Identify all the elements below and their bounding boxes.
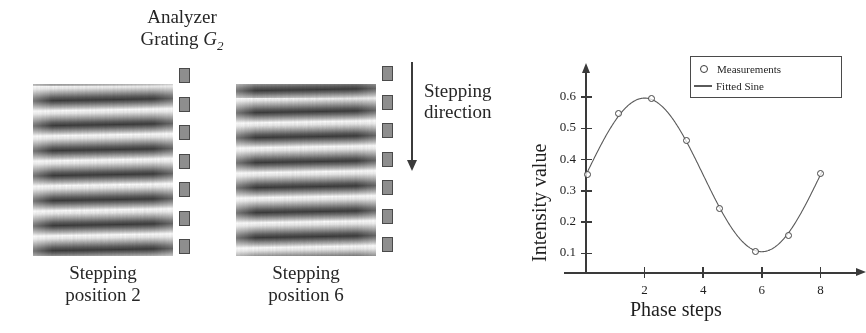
analyzer-grating-label: Analyzer Grating G2 (92, 6, 272, 54)
caption-1-line1: Stepping (23, 262, 183, 284)
stepping-direction-line2: direction (424, 101, 514, 122)
grating-square (382, 180, 393, 195)
caption-2-line2: position 6 (226, 284, 386, 306)
analyzer-grating-column-2 (381, 66, 395, 262)
legend-circle-marker-icon (700, 65, 708, 73)
grating-square (382, 123, 393, 138)
analyzer-symbol-subscript: 2 (217, 38, 224, 53)
fringe-image-panel-2 (236, 84, 376, 256)
caption-panel-1: Stepping position 2 (23, 262, 183, 306)
grating-square (179, 182, 190, 197)
caption-panel-2: Stepping position 6 (226, 262, 386, 306)
grating-square (179, 68, 190, 83)
legend-label-measurements: Measurements (717, 63, 781, 75)
phase-stepping-chart: 0.10.20.30.40.50.62468 Intensity value P… (510, 40, 858, 330)
grating-square (382, 209, 393, 224)
fringe-image-panel-1 (33, 84, 173, 256)
stepping-direction-arrow (404, 62, 420, 174)
fringe-vignette-2 (236, 84, 376, 256)
caption-1-line2: position 2 (23, 284, 183, 306)
data-point-marker (752, 248, 759, 255)
grating-square (382, 95, 393, 110)
data-point-marker (817, 170, 824, 177)
stepping-direction-line1: Stepping (424, 80, 514, 101)
grating-square (382, 237, 393, 252)
grating-square (179, 211, 190, 226)
grating-square (179, 239, 190, 254)
legend-line-marker-icon (694, 85, 712, 86)
grating-square (179, 154, 190, 169)
analyzer-grating-column-1 (178, 66, 192, 262)
stepping-direction-label: Stepping direction (424, 80, 514, 123)
legend-label-fitted-sine: Fitted Sine (716, 80, 764, 92)
data-point-marker (716, 205, 723, 212)
analyzer-label-line1: Analyzer (92, 6, 272, 28)
data-point-marker (584, 171, 591, 178)
x-axis-title: Phase steps (630, 298, 722, 321)
grating-square (382, 66, 393, 81)
analyzer-label-line2: Grating G2 (92, 28, 272, 54)
arrow-head-icon (407, 160, 417, 171)
grating-square (179, 125, 190, 140)
analyzer-label-grating-word: Grating (140, 28, 198, 49)
legend-item-fitted-sine: Fitted Sine (691, 80, 764, 92)
arrow-shaft-icon (411, 62, 413, 162)
y-axis-title: Intensity value (528, 144, 551, 262)
grating-square (382, 152, 393, 167)
chart-legend: Measurements Fitted Sine (690, 56, 842, 98)
analyzer-symbol: G (203, 28, 217, 49)
caption-2-line1: Stepping (226, 262, 386, 284)
fringe-vignette-1 (33, 84, 173, 256)
data-point-marker (648, 95, 655, 102)
legend-item-measurements: Measurements (691, 63, 781, 75)
data-point-marker (683, 137, 690, 144)
grating-square (179, 97, 190, 112)
data-point-marker (785, 232, 792, 239)
